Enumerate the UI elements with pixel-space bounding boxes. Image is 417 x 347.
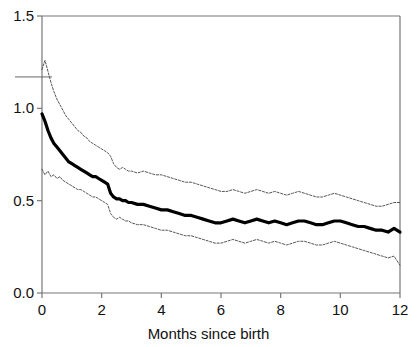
x-axis-tick-label: 6 [201, 301, 241, 318]
x-axis-tick-label: 4 [141, 301, 181, 318]
x-axis-tick-label: 8 [261, 301, 301, 318]
x-axis-title: Months since birth [0, 325, 417, 342]
x-axis-tick-label: 10 [320, 301, 360, 318]
series-line-0 [42, 60, 400, 206]
y-axis-tick-label: 1.0 [0, 99, 34, 116]
y-axis-tick-label: 0.5 [0, 192, 34, 209]
series-layer [42, 60, 400, 265]
series-line-1 [42, 114, 400, 232]
x-axis-tick-label: 12 [380, 301, 417, 318]
axes [37, 16, 400, 298]
x-axis-tick-label: 0 [22, 301, 62, 318]
series-line-2 [42, 169, 400, 265]
y-axis-tick-label: 0.0 [0, 284, 34, 301]
chart-plot-area [0, 0, 417, 347]
y-axis-tick-label: 1.5 [0, 7, 34, 24]
x-axis-tick-label: 2 [82, 301, 122, 318]
chart-figure: 0.00.51.01.5 024681012 Months since birt… [0, 0, 417, 347]
